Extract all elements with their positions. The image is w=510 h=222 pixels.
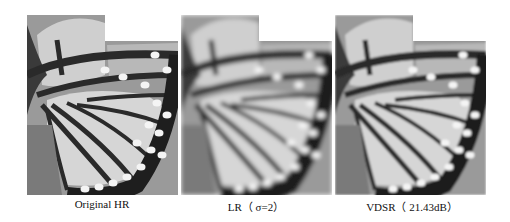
panel-lr	[181, 15, 332, 195]
caption-original-hr: Original HR	[22, 198, 182, 210]
butterfly-image	[181, 15, 332, 195]
butterfly-image	[27, 15, 178, 195]
caption-vdsr: VDSR（ 21.43dB）	[332, 198, 492, 214]
caption-lr: LR（ σ=2）	[176, 198, 336, 214]
panel-vdsr	[335, 15, 486, 195]
panel-original-hr	[27, 15, 178, 195]
butterfly-image	[335, 15, 486, 195]
